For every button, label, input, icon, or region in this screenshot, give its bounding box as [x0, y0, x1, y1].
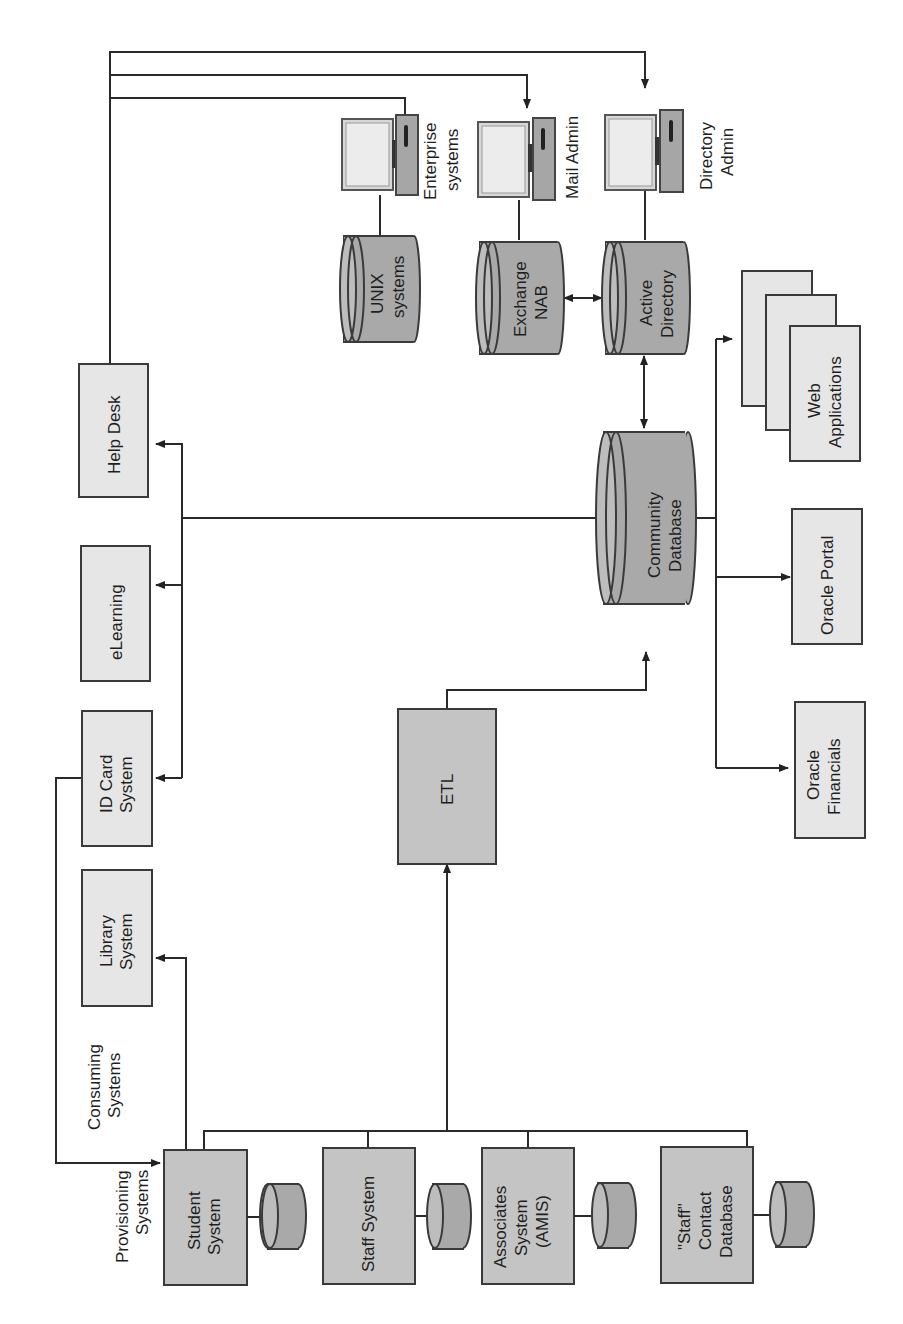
- id-card-system[interactable]: ID Card System: [82, 711, 152, 846]
- staff-system[interactable]: Staff System: [323, 1148, 415, 1284]
- etl-process[interactable]: ETL: [398, 709, 496, 864]
- community-database[interactable]: Community Database: [596, 432, 696, 604]
- staff-contact-db-cylinder-icon: [770, 1182, 814, 1247]
- svg-text:Library: Library: [97, 915, 116, 967]
- student-to-library-arrow: [156, 958, 186, 1150]
- staff-db-cylinder-icon: [427, 1184, 471, 1249]
- student-db-cylinder-icon: [260, 1184, 306, 1249]
- svg-text:Contact: Contact: [696, 1191, 715, 1250]
- svg-text:Database: Database: [717, 1185, 736, 1258]
- svg-text:ID Card: ID Card: [97, 754, 116, 813]
- student-system[interactable]: Student System: [164, 1150, 247, 1285]
- svg-text:Mail Admin: Mail Admin: [563, 116, 582, 199]
- svg-text:Consuming: Consuming: [85, 1044, 104, 1130]
- connectors: [56, 52, 790, 1163]
- helpdesk-to-mail-admin-line: [110, 75, 527, 108]
- architecture-diagram: Provisioning Systems Consuming Systems S…: [0, 0, 903, 1324]
- svg-text:Associates: Associates: [491, 1186, 510, 1268]
- svg-text:System: System: [205, 1198, 224, 1255]
- oracle-portal[interactable]: Oracle Portal: [792, 509, 862, 644]
- svg-text:Enterprise: Enterprise: [421, 123, 440, 200]
- svg-text:Active: Active: [637, 280, 656, 326]
- enterprise-systems-console[interactable]: Enterprise systems: [342, 115, 462, 200]
- directory-admin-console[interactable]: Directory Admin: [605, 110, 737, 192]
- associates-db-cylinder-icon: [592, 1183, 636, 1248]
- svg-text:Student: Student: [185, 1191, 204, 1250]
- svg-text:Applications: Applications: [826, 356, 845, 448]
- computer-icon: [605, 110, 683, 192]
- active-directory-store[interactable]: Active Directory: [602, 242, 690, 354]
- svg-text:eLearning: eLearning: [107, 584, 126, 660]
- help-desk-system[interactable]: Help Desk: [79, 364, 148, 497]
- svg-text:systems: systems: [443, 129, 462, 191]
- provisioning-label: Provisioning Systems: [113, 1170, 152, 1263]
- computer-icon: [342, 115, 418, 195]
- unix-systems-store[interactable]: UNIX systems: [340, 236, 420, 342]
- svg-text:System: System: [512, 1199, 531, 1256]
- library-system[interactable]: Library System: [82, 870, 152, 1006]
- staff-contact-database[interactable]: "Staff" Contact Database: [661, 1147, 753, 1283]
- svg-text:ETL: ETL: [438, 774, 457, 805]
- web-applications-stack[interactable]: Web Applications: [742, 271, 860, 461]
- mail-admin-console[interactable]: Mail Admin: [478, 116, 582, 200]
- svg-text:Systems: Systems: [105, 1053, 124, 1118]
- svg-text:System: System: [117, 756, 136, 813]
- svg-text:"Staff": "Staff": [675, 1203, 694, 1250]
- svg-text:Directory: Directory: [697, 121, 716, 190]
- elearning-system[interactable]: eLearning: [81, 546, 150, 681]
- svg-text:Provisioning: Provisioning: [113, 1170, 132, 1263]
- svg-text:Directory: Directory: [658, 269, 677, 338]
- svg-text:Staff System: Staff System: [359, 1176, 378, 1272]
- svg-text:Oracle: Oracle: [804, 750, 823, 800]
- svg-text:(AMIS): (AMIS): [533, 1195, 552, 1248]
- oracle-financials[interactable]: Oracle Financials: [795, 702, 865, 838]
- svg-text:Web: Web: [805, 383, 824, 418]
- svg-text:Oracle Portal: Oracle Portal: [818, 536, 837, 635]
- svg-text:Help Desk: Help Desk: [105, 395, 124, 474]
- computer-icon: [478, 118, 555, 200]
- svg-text:systems: systems: [389, 256, 408, 318]
- svg-text:Admin: Admin: [718, 128, 737, 176]
- svg-text:UNIX: UNIX: [368, 273, 387, 314]
- svg-text:Financials: Financials: [825, 738, 844, 815]
- svg-text:Systems: Systems: [133, 1170, 152, 1235]
- consuming-label: Consuming Systems: [85, 1044, 124, 1130]
- svg-text:NAB: NAB: [532, 285, 551, 320]
- svg-text:Database: Database: [666, 499, 685, 572]
- bus-to-helpdesk-arrow: [156, 444, 182, 778]
- associates-system[interactable]: Associates System (AMIS): [482, 1148, 574, 1284]
- etl-to-community-db-arrow: [447, 652, 646, 709]
- svg-text:Community: Community: [645, 492, 664, 578]
- exchange-nab-store[interactable]: Exchange NAB: [476, 242, 564, 354]
- svg-text:Exchange: Exchange: [511, 261, 530, 337]
- svg-text:System: System: [117, 913, 136, 970]
